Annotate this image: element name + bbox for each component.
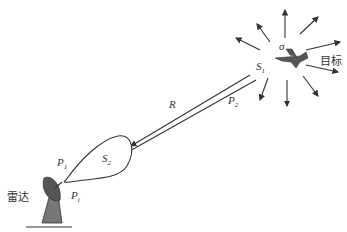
beam-lobe	[64, 136, 131, 183]
s1-label: S1	[256, 60, 265, 75]
p1-label: P1	[57, 156, 67, 171]
radar-equation-diagram	[0, 0, 347, 232]
radar-label: 雷达	[7, 188, 29, 204]
target-label: 目标	[320, 52, 342, 68]
sigma-label: σ	[279, 40, 284, 52]
range-label: R	[169, 98, 176, 110]
signal-path	[128, 75, 256, 152]
p2-label: P2	[228, 94, 238, 109]
s2-label: S2	[102, 152, 111, 167]
pt-label: Pt	[71, 189, 80, 204]
radar-antenna-icon	[26, 177, 72, 227]
